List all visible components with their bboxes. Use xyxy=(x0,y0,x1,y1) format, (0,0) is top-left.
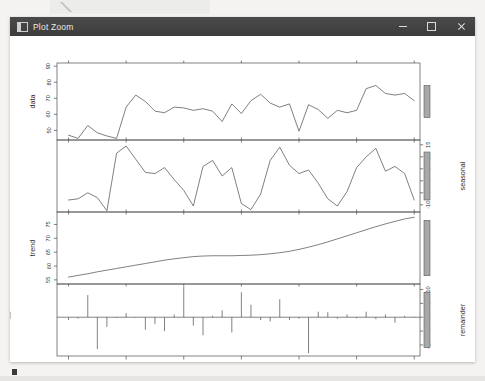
panel-frame xyxy=(57,284,420,356)
y-tick-label: -10 xyxy=(426,201,432,209)
minimize-button[interactable] xyxy=(388,17,417,36)
scale-bar-trend xyxy=(424,220,430,275)
plot-canvas[interactable]: 5060708090data-10-5051015seasonal5560657… xyxy=(10,36,475,362)
y-tick-label: 90 xyxy=(46,63,52,69)
desktop-strip xyxy=(50,0,210,14)
window-controls xyxy=(388,17,475,36)
panel-frame xyxy=(57,63,420,140)
desktop-diagonal-artifact xyxy=(58,2,74,12)
panel-data: 5060708090data xyxy=(28,61,431,143)
scale-bar-data xyxy=(424,86,430,118)
y-tick-label: 60 xyxy=(46,111,52,117)
series-trend xyxy=(69,217,415,277)
panel-frame xyxy=(57,212,420,284)
scale-bar-remainder xyxy=(424,292,430,347)
stl-decomposition-chart: 5060708090data-10-5051015seasonal5560657… xyxy=(10,36,475,362)
panel-trend: 5560657075trend xyxy=(28,210,431,287)
y-tick-label: 65 xyxy=(46,249,52,255)
series-data xyxy=(69,85,415,138)
desktop-marker-icon xyxy=(12,369,17,375)
panel-axis-label-remainder: remainder xyxy=(458,303,467,336)
series-seasonal xyxy=(69,146,415,211)
taskbar-edge xyxy=(0,376,485,381)
plot-zoom-window: Plot Zoom 5060708090data-10-5051015seaso… xyxy=(10,17,475,362)
window-titlebar[interactable]: Plot Zoom xyxy=(10,17,475,36)
panel-axis-label-trend: trend xyxy=(28,240,37,256)
panel-axis-label-data: data xyxy=(28,95,37,109)
y-tick-label: 55 xyxy=(46,277,52,283)
y-tick-label: 70 xyxy=(46,95,52,101)
y-tick-label: 10 xyxy=(426,286,432,292)
y-tick-label: 80 xyxy=(46,79,52,85)
y-tick-label: 75 xyxy=(46,221,52,227)
y-tick-label: 60 xyxy=(46,263,52,269)
plot-window-icon xyxy=(17,22,28,32)
panel-seasonal: -10-5051015seasonal xyxy=(57,138,467,215)
panel-frame xyxy=(57,140,420,212)
window-title: Plot Zoom xyxy=(33,22,74,32)
panel-remainder: -10-50510remainder xyxy=(10,284,467,360)
y-tick-label: 50 xyxy=(46,127,52,133)
scale-bar-seasonal xyxy=(424,152,430,200)
close-button[interactable] xyxy=(446,17,475,36)
maximize-button[interactable] xyxy=(417,17,446,36)
y-tick-label: 15 xyxy=(426,142,432,148)
panel-axis-label-seasonal: seasonal xyxy=(458,161,467,190)
y-tick-label: 70 xyxy=(46,235,52,241)
